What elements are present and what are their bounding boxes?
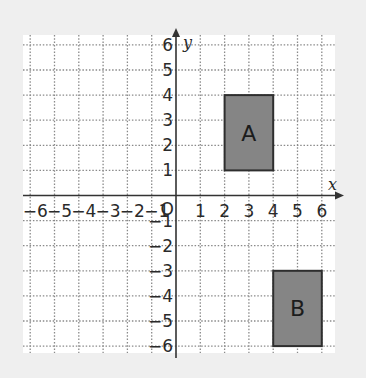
y-tick-label: 3: [162, 110, 173, 130]
x-axis-label: x: [328, 175, 337, 194]
y-tick-label: 6: [162, 35, 173, 55]
y-tick-label: −1: [148, 211, 173, 231]
x-tick-label: 4: [268, 201, 279, 221]
y-tick-label: 2: [162, 135, 173, 155]
x-tick-label: −5: [47, 201, 72, 221]
shape-label: A: [241, 121, 256, 146]
x-tick-label: −3: [96, 201, 121, 221]
shape-label: B: [290, 296, 305, 321]
y-tick-label: −5: [148, 311, 173, 331]
y-tick-label: −2: [148, 236, 173, 256]
y-tick-label: 1: [162, 160, 173, 180]
x-tick-label: 1: [195, 201, 206, 221]
y-axis-arrow-icon: [172, 28, 180, 37]
x-tick-label: 3: [243, 201, 254, 221]
coordinate-grid-diagram: AB xyO−6−5−4−3−2−1123456654321−1−2−3−4−5…: [0, 0, 366, 378]
y-tick-label: −6: [148, 336, 173, 356]
x-tick-label: 6: [316, 201, 327, 221]
x-tick-label: 2: [219, 201, 230, 221]
y-tick-label: −3: [148, 261, 173, 281]
x-tick-label: −2: [120, 201, 145, 221]
rectangle-b: B: [273, 271, 322, 346]
x-tick-label: 5: [292, 201, 303, 221]
y-axis-label: y: [182, 33, 193, 52]
x-tick-label: −4: [71, 201, 96, 221]
rectangle-a: A: [225, 95, 274, 170]
y-tick-label: −4: [148, 286, 173, 306]
x-tick-label: −6: [23, 201, 48, 221]
y-tick-label: 5: [162, 60, 173, 80]
y-tick-label: 4: [162, 85, 173, 105]
